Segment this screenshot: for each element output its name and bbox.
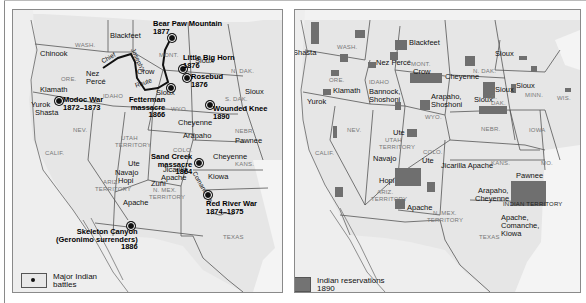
reservation-great-sioux-2 — [479, 106, 507, 114]
reservation-klamath — [323, 89, 331, 95]
reservation-wash-coast — [311, 22, 319, 44]
state-label-ore: ORE. — [61, 76, 76, 82]
battle-marker-red-river[interactable] — [204, 191, 212, 199]
tribe-label-jicarilla-apache: Jicarilla Apache — [441, 162, 493, 170]
tribe-label-ute-2: Ute — [422, 157, 434, 165]
reservation-wind-river — [420, 100, 430, 110]
state-label-nmex: N. MEX. — [433, 210, 457, 216]
state-label-mo: MO. — [541, 160, 553, 166]
tribe-label-blackfeet: Blackfeet — [110, 32, 141, 40]
state-label-utah-territory: TERRITORY — [115, 142, 151, 148]
tribe-label-cheyenne-ok: Cheyenne — [475, 195, 509, 203]
reservation-ore — [331, 70, 339, 76]
tribe-label-klamath: Klamath — [40, 86, 68, 94]
tribe-label-cheyenne: Cheyenne — [445, 73, 479, 81]
reservations-legend: Indian reservations 1890 — [294, 277, 385, 293]
reservation-nmex-pueblos — [427, 182, 435, 192]
reservation-mn-1 — [519, 56, 527, 60]
state-label-wash: WASH. — [337, 44, 357, 50]
battle-marker-fetterman[interactable] — [167, 84, 175, 92]
battle-label-skeleton-canyon[interactable]: Skeleton Canyon (Geronimo surrenders) 18… — [56, 228, 138, 251]
tribe-label-sioux-nebr: Sioux — [474, 96, 493, 104]
reservation-ute — [407, 129, 417, 137]
tribe-label-shasta: Shasta — [294, 49, 316, 57]
state-label-idaho: IDAHO — [369, 79, 389, 85]
battle-year: 1890 — [213, 112, 230, 121]
tribe-label-shoshoni-wyo: Shoshoni — [431, 101, 462, 109]
battle-year: 1886 — [121, 242, 138, 251]
state-label-minn: MINN. — [525, 92, 543, 98]
state-label-nebr: NEBR. — [235, 128, 254, 134]
state-label-utah: UTAH — [385, 137, 402, 143]
state-label-ariz-territory: TERRITORY — [371, 196, 407, 202]
reservation-wis — [565, 88, 571, 92]
battle-marker-sand-creek[interactable] — [195, 159, 203, 167]
state-label-utah: UTAH — [121, 135, 138, 141]
reservation-wash-2 — [340, 54, 348, 62]
tribe-label-shasta: Shasta — [35, 109, 58, 117]
battle-label-little-big-horn[interactable]: Little Big Horn 1876 — [183, 54, 235, 69]
reservation-hopi — [395, 175, 405, 183]
battle-year: 1866 — [149, 110, 166, 119]
legend-label: Major Indian battles — [53, 273, 97, 290]
battle-marker-modoc[interactable] — [55, 97, 63, 105]
state-label-colo: COLO. — [423, 149, 443, 155]
battle-year: 1877 — [153, 27, 170, 36]
tribe-label-sioux-ndak: Sioux — [495, 50, 514, 58]
frame-left-rule — [4, 0, 5, 303]
legend-label: Indian reservations 1890 — [317, 277, 385, 293]
reservation-calif — [335, 187, 343, 197]
state-label-idaho: IDAHO — [103, 93, 123, 99]
tribe-label-hopi: Hopi — [379, 177, 394, 185]
reservation-nez-perce — [368, 62, 376, 68]
state-label-kans: KANS. — [235, 161, 254, 167]
battle-label-sand-creek[interactable]: Sand Creek massacre 1864 — [151, 153, 192, 176]
tribe-label-kiowa: Kiowa — [208, 173, 228, 181]
tribe-label-shoshoni: Shoshoni — [369, 96, 400, 104]
battle-label-wounded-knee[interactable]: Wounded Knee 1890 — [213, 105, 267, 120]
tribe-label-nez-perce: Nez Percé — [376, 59, 411, 67]
tribe-label-ute: Ute — [393, 129, 405, 137]
tribe-label-arapaho: Arapaho — [183, 132, 211, 140]
state-label-wyo: WYO. — [425, 114, 442, 120]
tribe-label-sioux-sdak: Sioux — [495, 86, 514, 94]
battle-marker-rosebud[interactable] — [183, 74, 191, 82]
state-label-utah-territory: TERRITORY — [379, 144, 415, 150]
tribe-label-blackfeet: Blackfeet — [409, 39, 440, 47]
state-label-nebr: NEBR. — [481, 126, 500, 132]
state-label-nev: NEV. — [73, 127, 87, 133]
state-label-wis: WIS. — [557, 95, 571, 101]
battles-map: WASH. ORE. IDAHO NEV. CALIF. UTAH TERRIT… — [12, 9, 283, 293]
state-label-texas: TEXAS — [479, 234, 500, 240]
state-label-ariz: ARIZ. — [377, 189, 393, 195]
reservation-ndak — [465, 56, 475, 66]
state-label-nmex-territory: TERRITORY — [427, 217, 463, 223]
state-label-wyo: WYO. — [171, 106, 188, 112]
battle-year: 1876 — [183, 61, 200, 70]
battle-dot-icon — [21, 273, 47, 288]
tribe-label-kiowa: Kiowa — [501, 230, 521, 238]
tribe-label-sioux-sdak: Sioux — [245, 88, 264, 96]
battle-label-fetterman[interactable]: Fetterman massacre 1866 — [129, 96, 165, 119]
state-label-wash: WASH. — [75, 42, 95, 48]
state-label-texas: TEXAS — [223, 234, 244, 240]
battle-label-rosebud[interactable]: Rosebud 1876 — [191, 73, 223, 88]
reservations-map: WASH. ORE. IDAHO NEV. CALIF. UTAH TERRIT… — [294, 9, 581, 293]
reservation-swatch-icon — [294, 277, 311, 292]
reservation-mn-2 — [531, 66, 537, 72]
tribe-label-apache-ariz: Apache — [123, 199, 148, 207]
tribe-label-chinook: Chinook — [40, 50, 68, 58]
tribe-label-nez-perce: Nez Percé — [86, 70, 110, 85]
tribe-label-pawnee: Pawnee — [235, 137, 262, 145]
battle-label-red-river[interactable]: Red River War 1874–1875 — [206, 200, 257, 215]
state-label-indian-territory: INDIAN TERRITORY — [503, 201, 563, 207]
tribe-label-apache: Apache — [407, 204, 432, 212]
battle-label-bear-paw[interactable]: Bear Paw Mountain 1877 — [153, 20, 222, 35]
state-label-iowa: IOWA — [529, 127, 546, 133]
battle-year: 1864 — [176, 167, 193, 176]
tribe-label-pawnee: Pawnee — [516, 172, 543, 180]
battle-year: 1876 — [191, 80, 208, 89]
frame-top-rule — [4, 0, 586, 1]
battle-year: 1872–1873 — [63, 103, 101, 112]
battle-label-modoc[interactable]: Modoc War 1872–1873 — [63, 96, 103, 111]
